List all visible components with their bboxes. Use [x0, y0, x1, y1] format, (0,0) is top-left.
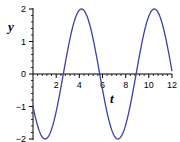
y-tick-label-minus-1: −1 [16, 102, 26, 112]
chart: 2 1 0 −1 −2 2 4 6 8 10 12 y t [0, 0, 180, 142]
x-tick-label-4: 4 [77, 80, 82, 90]
y-tick-label-0: 0 [21, 69, 26, 79]
y-axis-label: y [6, 19, 14, 34]
x-tick-label-10: 10 [144, 80, 154, 90]
x-major-ticks [56, 74, 172, 78]
x-tick-label-8: 8 [123, 80, 128, 90]
x-tick-label-2: 2 [54, 80, 59, 90]
y-tick-label-minus-2: −2 [16, 134, 26, 142]
x-tick-label-12: 12 [167, 80, 177, 90]
x-axis-label: t [110, 91, 114, 106]
y-tick-label-1: 1 [21, 37, 26, 47]
y-tick-label-2: 2 [21, 4, 26, 14]
